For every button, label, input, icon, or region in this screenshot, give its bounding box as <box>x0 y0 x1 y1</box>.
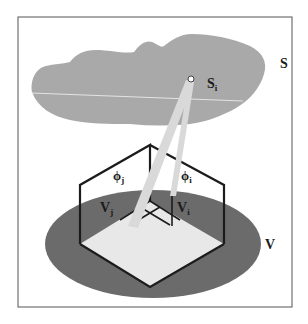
label-volume-V: V <box>265 237 275 252</box>
surface-point-marker <box>188 76 194 82</box>
label-surface-S: S <box>280 56 288 71</box>
diagram-figure: S Si V ϕj ϕi Vj Vi <box>0 0 308 324</box>
